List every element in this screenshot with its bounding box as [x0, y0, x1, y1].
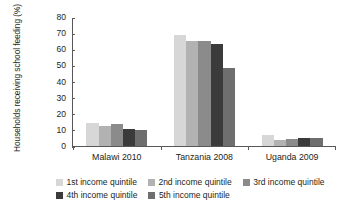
- x-axis-label-malawi: Malawi 2010: [73, 152, 161, 163]
- x-axis-labels: Malawi 2010 Tanzania 2008 Uganda 2009: [73, 150, 336, 164]
- chart-legend: 1st income quintile 2nd income quintile …: [56, 176, 348, 202]
- legend-item-1st-income-quintile[interactable]: 1st income quintile: [56, 177, 137, 188]
- legend-swatch-icon: [148, 179, 155, 186]
- bar[interactable]: [135, 130, 147, 146]
- x-axis-label-tanzania: Tanzania 2008: [161, 152, 249, 163]
- y-tick-label: 10: [56, 125, 66, 136]
- legend-item-5th-income-quintile[interactable]: 5th income quintile: [148, 190, 229, 201]
- y-tick-label: 40: [56, 77, 66, 88]
- legend-item-2nd-income-quintile[interactable]: 2nd income quintile: [148, 177, 232, 188]
- bar[interactable]: [99, 126, 111, 146]
- x-tick-mark-3: [335, 147, 336, 150]
- legend-item-4th-income-quintile[interactable]: 4th income quintile: [56, 190, 137, 201]
- y-tick-label: 0: [61, 141, 66, 152]
- legend-row-2: 4th income quintile 5th income quintile: [56, 189, 348, 202]
- legend-row-1: 1st income quintile 2nd income quintile …: [56, 176, 348, 189]
- legend-swatch-icon: [243, 179, 250, 186]
- legend-swatch-icon: [56, 179, 63, 186]
- bar[interactable]: [123, 129, 135, 146]
- bar-group-uganda-2009: [248, 18, 336, 146]
- bar[interactable]: [274, 140, 286, 146]
- bar[interactable]: [223, 68, 235, 146]
- plot-area: 80 70 60 50 40 30 20 10: [72, 18, 336, 147]
- y-tick-label: 30: [56, 93, 66, 104]
- bar[interactable]: [86, 123, 98, 146]
- y-tick-label: 80: [56, 12, 66, 23]
- bar[interactable]: [211, 44, 223, 146]
- legend-label: 1st income quintile: [67, 177, 137, 188]
- x-tick-mark-1: [161, 147, 162, 150]
- bar-group-tanzania-2008: [161, 18, 249, 146]
- y-tick-label: 60: [56, 44, 66, 55]
- y-axis-title: Households receiving school feeding (%): [12, 4, 22, 152]
- legend-swatch-icon: [148, 192, 155, 199]
- bar-groups: [73, 18, 336, 146]
- y-axis-title-container: Households receiving school feeding (%): [4, 8, 30, 148]
- bar-group-malawi-2010: [73, 18, 161, 146]
- bar[interactable]: [198, 41, 210, 146]
- bar[interactable]: [310, 138, 322, 146]
- legend-label: 3rd income quintile: [253, 177, 324, 188]
- bar[interactable]: [186, 41, 198, 146]
- legend-label: 2nd income quintile: [158, 177, 231, 188]
- legend-item-3rd-income-quintile[interactable]: 3rd income quintile: [243, 177, 325, 188]
- x-axis-label-uganda: Uganda 2009: [248, 152, 336, 163]
- x-tick-mark-0: [73, 147, 74, 150]
- bar[interactable]: [298, 138, 310, 146]
- chart-figure: Households receiving school feeding (%) …: [0, 0, 353, 220]
- legend-label: 5th income quintile: [159, 190, 230, 201]
- legend-label: 4th income quintile: [67, 190, 138, 201]
- bar[interactable]: [286, 139, 298, 146]
- bar[interactable]: [174, 35, 186, 146]
- y-tick-label: 70: [56, 28, 66, 39]
- bar[interactable]: [262, 135, 274, 146]
- legend-swatch-icon: [56, 192, 63, 199]
- y-tick-label: 50: [56, 60, 66, 71]
- x-axis-line: [72, 146, 336, 147]
- bar[interactable]: [111, 124, 123, 146]
- x-tick-mark-2: [248, 147, 249, 150]
- y-tick-label: 20: [56, 109, 66, 120]
